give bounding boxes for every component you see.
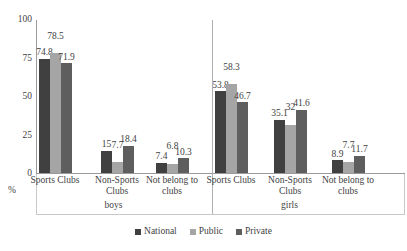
bar-group: 35.13241.6: [274, 20, 307, 174]
legend-swatch-icon: [236, 229, 242, 235]
bar-group: 7.46.810.3: [156, 20, 189, 174]
bar: [237, 102, 248, 174]
x-axis-category-label: Non-Sports Clubs: [259, 175, 321, 197]
legend-item[interactable]: Public: [190, 227, 223, 237]
bar: [101, 151, 112, 174]
bar-value-label: 18.4: [117, 135, 141, 145]
bar: [178, 158, 189, 174]
y-axis-tick-label: 50: [23, 92, 33, 102]
x-axis-category-label: Sports Clubs: [200, 175, 262, 186]
bar-value-label: 41.6: [290, 99, 314, 109]
y-axis: 0255075100: [0, 0, 36, 180]
bar-value-label: 8.9: [326, 150, 350, 160]
bar-value-label: 10.3: [172, 148, 196, 158]
bar: [215, 91, 226, 174]
x-axis-category-label: Sports Clubs: [24, 175, 86, 186]
bar-group: 157.718.4: [101, 20, 134, 174]
bar-value-label: 58.3: [220, 63, 244, 73]
bar: [274, 120, 285, 174]
legend-label: Private: [245, 227, 272, 237]
legend-swatch-icon: [135, 229, 141, 235]
legend-swatch-icon: [190, 229, 196, 235]
y-axis-tick-label: 75: [23, 54, 33, 64]
x-axis-category-label: Not belong to clubs: [317, 175, 379, 197]
bar: [285, 125, 296, 174]
grouped-bar-chart: 0255075100 % 74.878.571.9157.718.47.46.8…: [0, 0, 407, 251]
bar-value-label: 78.5: [44, 32, 68, 42]
legend: NationalPublicPrivate: [0, 227, 407, 237]
bar-group: 74.878.571.9: [39, 20, 72, 174]
bar-value-label: 46.7: [231, 92, 255, 102]
bar: [61, 63, 72, 174]
bar: [123, 146, 134, 174]
x-axis-supergroup-label: girls: [250, 200, 330, 211]
legend-label: Public: [199, 227, 223, 237]
legend-item[interactable]: National: [135, 227, 177, 237]
bar: [332, 160, 343, 174]
y-axis-tick-label: 25: [23, 131, 33, 141]
bar: [50, 53, 61, 174]
bar: [354, 156, 365, 174]
bar: [296, 110, 307, 174]
plot-area: 74.878.571.9157.718.47.46.810.353.858.34…: [37, 20, 405, 174]
x-axis-supergroup-label: boys: [74, 200, 154, 211]
bar-value-label: 11.7: [348, 145, 372, 155]
bar-group: 8.97.711.7: [332, 20, 365, 174]
legend-item[interactable]: Private: [236, 227, 272, 237]
bar-value-label: 7.4: [150, 152, 174, 162]
bar-value-label: 71.9: [55, 53, 79, 63]
bar-group: 53.858.346.7: [215, 20, 248, 174]
x-axis-category-label: Not belong to clubs: [141, 175, 203, 197]
bar: [39, 59, 50, 174]
y-axis-tick-label: 100: [18, 15, 32, 25]
legend-label: National: [144, 227, 177, 237]
x-axis-category-label: Non-Sports Clubs: [86, 175, 148, 197]
y-axis-unit-label: %: [8, 186, 16, 196]
